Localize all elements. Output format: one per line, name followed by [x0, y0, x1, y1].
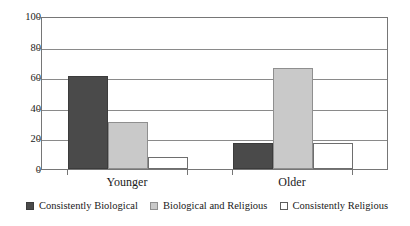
y-tick-label-60: 60: [7, 73, 41, 83]
x-tick-mark-0: [67, 170, 68, 175]
y-axis: 100806040200: [0, 0, 41, 226]
y-tick-label-20: 20: [7, 134, 41, 144]
bar-chart: 100806040200 YoungerOlder Consistently B…: [0, 0, 410, 226]
x-tick-label-older: Older: [232, 175, 352, 189]
legend-item-consistently-religious[interactable]: Consistently Religious: [280, 200, 388, 212]
bar-younger-biological-and-religious: [108, 122, 148, 169]
legend-label: Biological and Religious: [163, 200, 267, 212]
y-tick-label-100: 100: [7, 12, 41, 22]
y-tick-label-0: 0: [7, 165, 41, 175]
bar-younger-consistently-biological: [68, 76, 108, 169]
bars-layer: [42, 18, 387, 169]
chart-legend: Consistently BiologicalBiological and Re…: [26, 198, 388, 214]
legend-label: Consistently Biological: [39, 200, 138, 212]
x-tick-mark-3: [352, 170, 353, 175]
bar-older-biological-and-religious: [273, 68, 313, 169]
y-tick-mark-0: [37, 170, 41, 171]
legend-item-consistently-biological[interactable]: Consistently Biological: [26, 200, 138, 212]
bar-older-consistently-biological: [233, 143, 273, 169]
x-tick-label-younger: Younger: [67, 175, 187, 189]
x-tick-mark-1: [187, 170, 188, 175]
y-tick-label-40: 40: [7, 104, 41, 114]
bar-older-consistently-religious: [313, 143, 353, 169]
legend-swatch-icon: [150, 202, 158, 210]
legend-item-biological-and-religious[interactable]: Biological and Religious: [150, 200, 267, 212]
plot-area: [41, 17, 388, 170]
x-tick-mark-2: [232, 170, 233, 175]
legend-swatch-icon: [26, 202, 34, 210]
bar-younger-consistently-religious: [148, 157, 188, 169]
legend-label: Consistently Religious: [293, 200, 388, 212]
legend-swatch-icon: [280, 202, 288, 210]
y-tick-label-80: 80: [7, 43, 41, 53]
